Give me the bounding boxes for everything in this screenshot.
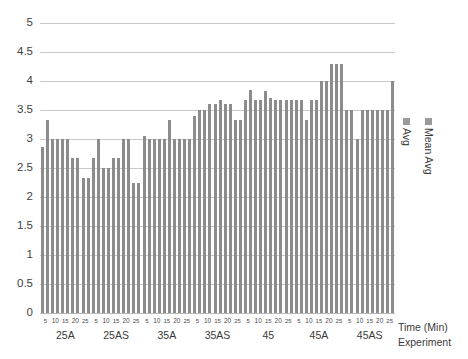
- bar-pair: [81, 23, 91, 313]
- x-axis-labels: 51015202525A51015202525AS51015202535A510…: [40, 315, 395, 340]
- time-tick-label: 20: [71, 318, 80, 325]
- bar: [381, 110, 384, 313]
- bar-pair: [141, 23, 151, 313]
- bar-pair: [40, 23, 50, 313]
- x-axis-group: 51015202545A: [294, 315, 345, 340]
- bar-pair: [334, 23, 344, 313]
- y-axis-tick-label: 1: [0, 249, 33, 261]
- bar-pair: [243, 23, 253, 313]
- bar: [46, 120, 49, 313]
- bar: [173, 139, 176, 313]
- bar-pair: [233, 23, 243, 313]
- bar: [345, 110, 348, 313]
- bar-pair: [375, 23, 385, 313]
- bar-pair: [202, 23, 212, 313]
- time-tick-label: 25: [81, 318, 90, 325]
- bar: [310, 100, 313, 313]
- legend-label: Mean Avg: [424, 128, 435, 175]
- bar-pair: [162, 23, 172, 313]
- bar: [76, 158, 79, 313]
- time-tick-label: 5: [294, 318, 303, 325]
- time-tick-label: 10: [102, 318, 111, 325]
- bar-pair: [212, 23, 222, 313]
- time-tick-label: 15: [264, 318, 273, 325]
- bar-pair: [314, 23, 324, 313]
- bar: [66, 139, 69, 313]
- time-tick-label: 15: [112, 318, 121, 325]
- bar: [148, 139, 151, 313]
- bar-pair: [283, 23, 293, 313]
- bar-pair: [344, 23, 354, 313]
- bar: [356, 139, 359, 313]
- bar: [71, 158, 74, 313]
- bar: [87, 178, 90, 313]
- bar: [214, 104, 217, 313]
- time-tick-label: 20: [375, 318, 384, 325]
- x-axis-group: 51015202535AS: [192, 315, 243, 340]
- bar: [386, 110, 389, 313]
- bar: [122, 139, 125, 313]
- legend-label: Avg: [402, 128, 413, 146]
- bar: [117, 158, 120, 313]
- bar-pair: [121, 23, 131, 313]
- bar: [168, 120, 171, 313]
- time-tick-label: 15: [213, 318, 222, 325]
- time-tick-label: 5: [193, 318, 202, 325]
- bar: [244, 100, 247, 313]
- bar: [153, 139, 156, 313]
- y-axis-tick-label: 0.5: [0, 278, 33, 290]
- bar-pair: [101, 23, 111, 313]
- bar-pair: [182, 23, 192, 313]
- bar-group: [192, 23, 243, 313]
- bar: [366, 110, 369, 313]
- bar-pair: [152, 23, 162, 313]
- bar-group: [141, 23, 192, 313]
- time-tick-label: 10: [203, 318, 212, 325]
- bar: [335, 64, 338, 313]
- bar: [203, 110, 206, 313]
- bar: [340, 64, 343, 313]
- time-tick-label: 5: [41, 318, 50, 325]
- y-axis-tick-label: 1.5: [0, 220, 33, 232]
- bar: [274, 100, 277, 313]
- bar-pair: [60, 23, 70, 313]
- bar: [290, 100, 293, 313]
- x-axis-title-experiment: Experiment: [398, 337, 451, 348]
- time-tick-label: 20: [274, 318, 283, 325]
- bar: [285, 100, 288, 313]
- bar-pair: [70, 23, 80, 313]
- bar: [264, 91, 267, 313]
- bar-pair: [324, 23, 334, 313]
- bar: [361, 110, 364, 313]
- experiment-group-label: 25AS: [91, 325, 142, 341]
- time-tick-label: 10: [254, 318, 263, 325]
- time-tick-label: 10: [355, 318, 364, 325]
- bar: [82, 178, 85, 313]
- time-ticks: 510152025: [344, 315, 395, 325]
- bar: [183, 139, 186, 313]
- time-tick-label: 10: [152, 318, 161, 325]
- bar-group: [294, 23, 345, 313]
- bar: [376, 110, 379, 313]
- bar-pair: [273, 23, 283, 313]
- bar-pair: [294, 23, 304, 313]
- bar-group: [40, 23, 91, 313]
- time-ticks: 510152025: [294, 315, 345, 325]
- y-axis-tick-label: 2: [0, 191, 33, 203]
- y-axis-tick-label: 0: [0, 307, 33, 319]
- legend-item-mean-avg[interactable]: Mean Avg: [424, 118, 435, 175]
- time-ticks: 510152025: [91, 315, 142, 325]
- bar: [193, 116, 196, 313]
- legend-item-avg[interactable]: Avg: [402, 118, 413, 146]
- bar-groups: [40, 23, 395, 313]
- bar: [295, 100, 298, 313]
- bar: [350, 110, 353, 313]
- bar: [234, 120, 237, 313]
- bar-pair: [192, 23, 202, 313]
- bar-pair: [223, 23, 233, 313]
- bar-pair: [111, 23, 121, 313]
- time-tick-label: 5: [92, 318, 101, 325]
- time-tick-label: 25: [233, 318, 242, 325]
- experiment-group-label: 45A: [294, 325, 345, 341]
- time-ticks: 510152025: [192, 315, 243, 325]
